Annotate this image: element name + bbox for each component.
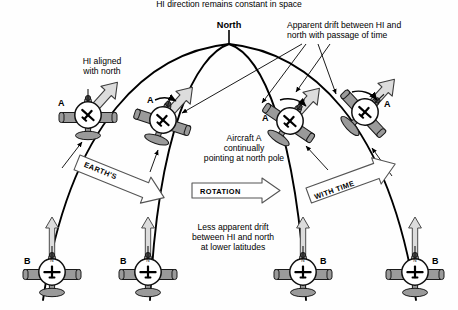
aircraft-label-B2: B — [120, 256, 127, 267]
hi-aligned-label: HI aligned with north — [62, 56, 142, 76]
svg-text:N: N — [50, 258, 53, 263]
aircraft-label-A1: A — [58, 98, 65, 109]
diagram-canvas: N N N N — [0, 0, 458, 310]
aircraft-a-note-label: Aircraft A continually pointing at north… — [186, 133, 302, 163]
north-label: North — [196, 20, 262, 31]
apparent-drift-label: Apparent drift between HI and north with… — [287, 20, 455, 40]
svg-text:N: N — [146, 258, 149, 263]
aircraft-group-A1 — [59, 76, 125, 140]
aircraft-label-A4: A — [384, 99, 391, 110]
svg-text:N: N — [301, 258, 304, 263]
meridian-arc-2 — [150, 44, 229, 300]
figure-title: HI direction remains constant in space — [0, 0, 458, 9]
svg-text:N: N — [413, 258, 416, 263]
aircraft-group-B2: N — [119, 217, 177, 297]
aircraft-group-A4 — [327, 73, 404, 150]
aircraft-label-B4: B — [432, 256, 439, 267]
aircraft-label-A2: A — [147, 95, 154, 106]
aircraft-label-B3: B — [320, 256, 327, 267]
rotation-banner: ROTATION — [200, 187, 241, 196]
less-drift-label: Less apparent drift between HI and north… — [170, 222, 296, 252]
aircraft-group-B1: N — [23, 217, 81, 297]
meridian-arc-1 — [43, 44, 229, 300]
rotation-banner-text: ROTATION — [200, 187, 241, 196]
aircraft-label-B1: B — [24, 256, 31, 267]
aircraft-label-A3: A — [262, 113, 269, 124]
